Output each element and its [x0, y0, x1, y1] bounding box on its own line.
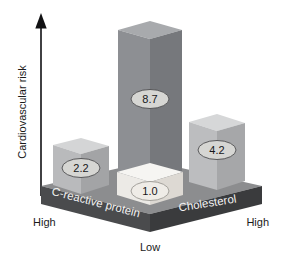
tick-label-left-high: High	[33, 216, 56, 228]
tick-label-front-low: Low	[140, 241, 160, 253]
value-text-2-2: 2.2	[73, 162, 88, 174]
tick-label-right-high: High	[246, 216, 269, 228]
cardiovascular-risk-3d-bar-chart: Cardiovascular risk C-reactive protein C…	[0, 0, 285, 265]
y-axis-title: Cardiovascular risk	[16, 65, 28, 159]
value-label-2-2: 2.2	[62, 159, 100, 178]
chart-canvas: Cardiovascular risk C-reactive protein C…	[0, 0, 285, 265]
value-text-8-7: 8.7	[142, 93, 157, 105]
value-label-1-0: 1.0	[131, 182, 169, 201]
value-text-1-0: 1.0	[142, 185, 157, 197]
value-label-4-2: 4.2	[198, 141, 236, 160]
y-axis-group: Cardiovascular risk	[16, 13, 47, 196]
value-text-4-2: 4.2	[209, 144, 224, 156]
y-axis-arrowhead-icon	[35, 13, 46, 29]
value-label-8-7: 8.7	[131, 90, 169, 109]
